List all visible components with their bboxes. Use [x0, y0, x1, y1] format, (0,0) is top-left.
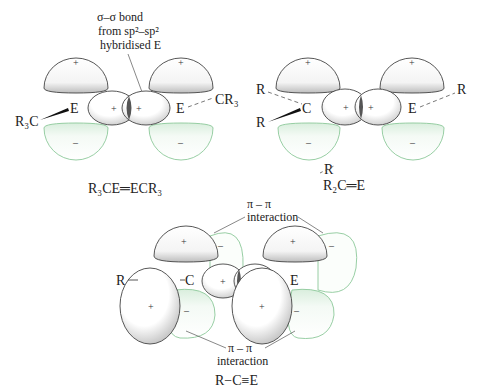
panel-bottom: π – π interaction + – + – + + + – + – R …	[116, 197, 357, 388]
pi-annotation-bottom-1: π – π	[228, 341, 252, 355]
substituent-r3c: R₃C	[15, 114, 39, 129]
positive-sign: +	[259, 301, 265, 312]
positive-sign: +	[148, 301, 154, 312]
negative-sign: –	[217, 240, 224, 251]
negative-sign: –	[293, 305, 300, 316]
panel-top-right: + + – – + + C E R R R R R₂C═E	[256, 57, 467, 193]
substituent-r-right: R	[457, 82, 467, 97]
pi-annotation-bottom-2: interaction	[217, 354, 268, 368]
panel-top-left: σ–σ bond from sp²–sp² hybridised E + + –…	[15, 10, 239, 196]
atom-e: E	[408, 101, 417, 116]
negative-sign: –	[409, 137, 416, 148]
dashed-bond	[188, 98, 213, 107]
dashed-bond	[268, 92, 302, 104]
orbital-diagram: σ–σ bond from sp²–sp² hybridised E + + –…	[0, 0, 479, 390]
negative-sign: –	[328, 240, 335, 251]
negative-sign: –	[72, 137, 79, 148]
atom-e: E	[290, 273, 299, 288]
annotation-leader	[128, 54, 142, 92]
formula-double-bond: R₃CE═ECR₃	[88, 181, 162, 196]
substituent-r-bottom: R	[256, 115, 266, 130]
formula-double-bond-2: R₂C═E	[323, 178, 365, 193]
annotation-line-3: hybridised E	[100, 38, 161, 52]
annotation-line-1: σ–σ bond	[97, 10, 143, 24]
substituent-cr3: CR₃	[215, 92, 239, 107]
formula-triple-bond: R−C≡E	[215, 373, 258, 388]
dashed-bond	[420, 93, 455, 107]
positive-sign: +	[368, 102, 374, 113]
annotation-leader	[214, 217, 245, 233]
wedge-bond	[40, 108, 69, 120]
pi-annotation-top-2: interaction	[247, 210, 298, 224]
positive-sign: +	[136, 103, 142, 114]
atom-e-left: E	[70, 101, 79, 116]
positive-sign: +	[111, 103, 117, 114]
formula-sub-r: R	[324, 162, 334, 177]
positive-sign: +	[181, 236, 187, 247]
wedge-bond	[268, 108, 301, 122]
negative-sign: –	[305, 137, 312, 148]
annotation-leader	[186, 331, 226, 348]
positive-sign: +	[290, 236, 296, 247]
positive-sign: +	[73, 57, 79, 68]
positive-sign: +	[220, 276, 226, 287]
positive-sign: +	[305, 57, 311, 68]
p-lobe-negative	[318, 233, 357, 293]
atom-c: C	[185, 273, 194, 288]
substituent-r-top: R	[256, 82, 266, 97]
pi-annotation-top-1: π – π	[247, 197, 271, 211]
negative-sign: –	[177, 137, 184, 148]
positive-sign: +	[343, 102, 349, 113]
atom-c: C	[302, 101, 311, 116]
atom-e-right: E	[176, 101, 185, 116]
positive-sign: +	[409, 57, 415, 68]
positive-sign: +	[178, 57, 184, 68]
negative-sign: –	[183, 305, 190, 316]
annotation-line-2: from sp²–sp²	[98, 24, 159, 38]
substituent-r: R	[116, 273, 126, 288]
